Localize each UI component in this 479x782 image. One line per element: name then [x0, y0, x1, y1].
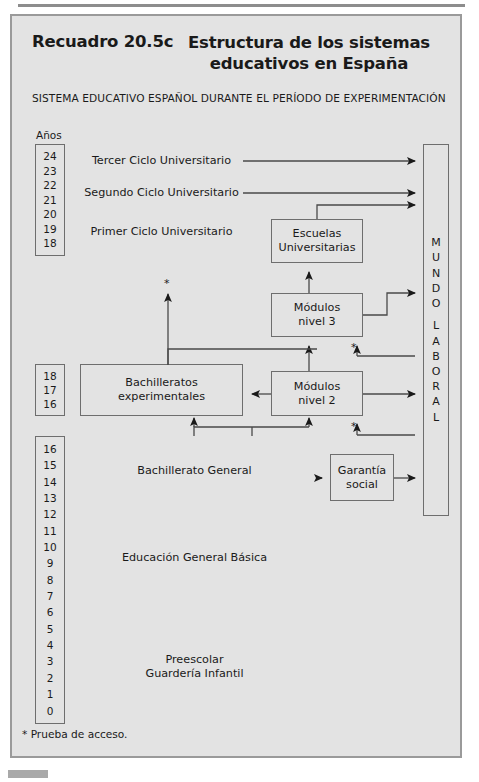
year-tick: 12	[36, 506, 64, 522]
year-tick: 14	[36, 474, 64, 490]
year-tick: 17	[36, 383, 64, 397]
box-escuelas-universitarias: Escuelas Universitarias	[271, 219, 363, 263]
box-bachilleratos-experimentales-line1: Bachilleratos	[125, 376, 198, 390]
mundo-laboral-letter: O	[432, 364, 441, 379]
mundo-laboral-letter: U	[432, 250, 440, 265]
box-modulos-nivel-2: Módulos nivel 2	[271, 371, 363, 416]
mundo-laboral-letter: A	[432, 334, 440, 349]
figure-panel: Recuadro 20.5c Estructura de los sistema…	[10, 14, 462, 758]
year-tick: 11	[36, 523, 64, 539]
figure-subtitle: SISTEMA EDUCATIVO ESPAÑOL DURANTE EL PER…	[32, 92, 452, 104]
box-educacion-general-basica: Educación General Básica	[70, 505, 319, 610]
box-tercer-ciclo: Tercer Ciclo Universitario	[80, 144, 243, 177]
year-tick: 9	[36, 555, 64, 571]
box-modulos-nivel-3-line2: nivel 3	[298, 315, 336, 329]
box-bachilleratos-experimentales-line2: experimentales	[118, 390, 205, 404]
box-primer-ciclo: Primer Ciclo Universitario	[80, 208, 243, 256]
box-number: Recuadro 20.5c	[32, 32, 173, 51]
box-escuelas-universitarias-line2: Universitarias	[278, 241, 355, 255]
year-tick: 22	[36, 178, 64, 193]
figure-footnote: * Prueba de acceso.	[22, 728, 128, 740]
box-preescolar-line1: Preescolar	[165, 653, 223, 667]
top-rule	[18, 4, 465, 7]
year-tick: 18	[36, 236, 64, 251]
mundo-laboral-letter: B	[432, 349, 440, 364]
year-tick: 3	[36, 653, 64, 669]
year-tick: 21	[36, 193, 64, 208]
year-column-upper-secondary: 181716	[35, 364, 65, 416]
year-tick: 2	[36, 670, 64, 686]
bottom-swatch	[8, 770, 48, 778]
box-escuelas-universitarias-line1: Escuelas	[293, 227, 342, 241]
year-tick: 19	[36, 222, 64, 237]
year-tick: 0	[36, 703, 64, 719]
year-tick: 1	[36, 686, 64, 702]
box-tercer-ciclo-label: Tercer Ciclo Universitario	[92, 154, 231, 168]
year-tick: 5	[36, 621, 64, 637]
mundo-laboral-column: MUNDOLABORAL	[423, 144, 449, 516]
box-segundo-ciclo: Segundo Ciclo Universitario	[80, 177, 243, 208]
mundo-laboral-letter: L	[433, 410, 439, 425]
year-tick: 23	[36, 164, 64, 179]
mundo-laboral-letter: O	[432, 296, 441, 311]
mundo-laboral-letter: L	[433, 318, 439, 333]
mundo-laboral-letter: A	[432, 394, 440, 409]
box-bachillerato-general-label: Bachillerato General	[137, 464, 251, 478]
box-bachilleratos-experimentales: Bachilleratos experimentales	[80, 364, 243, 416]
mundo-laboral-letter: R	[432, 379, 440, 394]
box-modulos-nivel-3-line1: Módulos	[294, 301, 340, 315]
year-tick: 8	[36, 572, 64, 588]
asterisk-marker-primer-ciclo: *	[164, 278, 170, 289]
mundo-laboral-letter: D	[432, 281, 440, 296]
mundo-laboral-letter: N	[432, 266, 440, 281]
year-tick: 13	[36, 490, 64, 506]
box-primer-ciclo-label: Primer Ciclo Universitario	[91, 225, 233, 239]
mundo-laboral-letter: M	[431, 235, 441, 250]
box-modulos-nivel-2-line2: nivel 2	[298, 394, 336, 408]
year-tick: 6	[36, 604, 64, 620]
box-garantia-social-line1: Garantía	[338, 464, 386, 478]
year-tick: 7	[36, 588, 64, 604]
asterisk-marker-modulos3: *	[351, 342, 357, 353]
box-bachillerato-general: Bachillerato General	[70, 436, 319, 505]
year-tick: 4	[36, 637, 64, 653]
year-tick: 24	[36, 149, 64, 164]
box-educacion-general-basica-label: Educación General Básica	[122, 551, 267, 565]
year-tick: 16	[36, 441, 64, 457]
year-tick: 15	[36, 457, 64, 473]
year-column-university: 24232221201918	[35, 144, 65, 256]
year-column-basic: 161514131211109876543210	[35, 436, 65, 724]
box-garantia-social-line2: social	[346, 478, 378, 492]
year-tick: 18	[36, 369, 64, 383]
box-modulos-nivel-2-line1: Módulos	[294, 380, 340, 394]
box-preescolar: Preescolar Guardería Infantil	[70, 610, 319, 724]
box-modulos-nivel-3: Módulos nivel 3	[271, 293, 363, 337]
asterisk-marker-modulos2: *	[351, 421, 357, 432]
year-tick: 10	[36, 539, 64, 555]
year-tick: 16	[36, 397, 64, 411]
box-preescolar-line2: Guardería Infantil	[146, 667, 244, 681]
box-garantia-social: Garantía social	[330, 454, 394, 501]
years-axis-label: Años	[36, 129, 62, 141]
figure-root: Recuadro 20.5c Estructura de los sistema…	[0, 0, 479, 782]
box-segundo-ciclo-label: Segundo Ciclo Universitario	[84, 186, 239, 200]
page-title: Estructura de los sistemas educativos en…	[164, 32, 454, 74]
year-tick: 20	[36, 207, 64, 222]
